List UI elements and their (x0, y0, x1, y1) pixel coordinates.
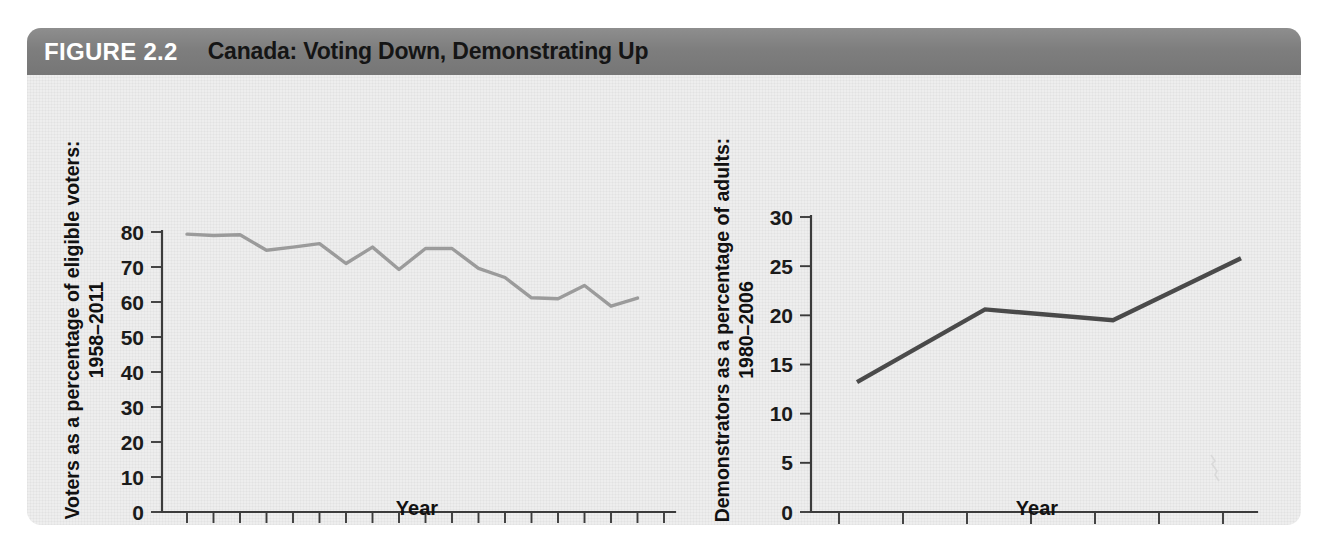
figure-title: Canada: Voting Down, Demonstrating Up (208, 38, 649, 65)
right-y-tick-label: 15 (770, 353, 794, 376)
demonstrators-series (857, 258, 1241, 382)
figure-panel: FIGURE 2.2 Canada: Voting Down, Demonstr… (27, 28, 1301, 525)
right-y-ticks: 051015202530 (770, 206, 811, 524)
demonstrators-plot: Demonstrators as a percentage of adults:… (687, 75, 1301, 525)
left-y-tick-label: 80 (121, 221, 144, 244)
figure-root: FIGURE 2.2 Canada: Voting Down, Demonstr… (0, 0, 1324, 556)
left-y-axis-title: Voters as a percentage of eligible voter… (61, 141, 107, 520)
right-y-tick-label: 20 (770, 304, 793, 327)
voter-turnout-plot: Voters as a percentage of eligible voter… (27, 75, 687, 525)
right-y-axis-title-line2: 1980–2006 (735, 281, 757, 379)
left-x-axis-title: Year (396, 497, 438, 519)
voter-turnout-series (187, 234, 638, 306)
left-y-ticks: 01020304050607080 (121, 221, 162, 524)
right-x-axis-title: Year (1016, 497, 1058, 519)
figure-number-label: FIGURE 2.2 (44, 38, 178, 66)
left-y-tick-label: 60 (121, 291, 144, 314)
right-y-tick-label: 5 (781, 451, 793, 474)
chart-demonstrators: Demonstrators as a percentage of adults:… (687, 75, 1301, 525)
right-y-tick-label: 25 (770, 255, 794, 278)
left-y-tick-label: 20 (121, 431, 144, 454)
left-y-tick-label: 50 (121, 326, 144, 349)
right-y-tick-label: 0 (781, 501, 793, 524)
right-y-tick-label: 30 (770, 206, 793, 229)
left-y-tick-label: 30 (121, 396, 144, 419)
left-y-tick-label: 40 (121, 361, 144, 384)
right-y-axis-title-line1: Demonstrators as a percentage of adults: (711, 138, 733, 523)
left-y-tick-label: 70 (121, 256, 144, 279)
scan-artifact-mark (1211, 455, 1219, 481)
left-y-axis-title-line1: Voters as a percentage of eligible voter… (61, 141, 83, 520)
left-y-tick-label: 10 (121, 466, 144, 489)
left-y-tick-label: 0 (132, 501, 144, 524)
right-y-axis-title: Demonstrators as a percentage of adults:… (711, 138, 757, 523)
figure-header-banner: FIGURE 2.2 Canada: Voting Down, Demonstr… (27, 28, 1301, 75)
right-y-tick-label: 10 (770, 402, 793, 425)
left-y-axis-title-line2: 1958–2011 (85, 282, 107, 379)
chart-voter-turnout: Voters as a percentage of eligible voter… (27, 75, 687, 525)
